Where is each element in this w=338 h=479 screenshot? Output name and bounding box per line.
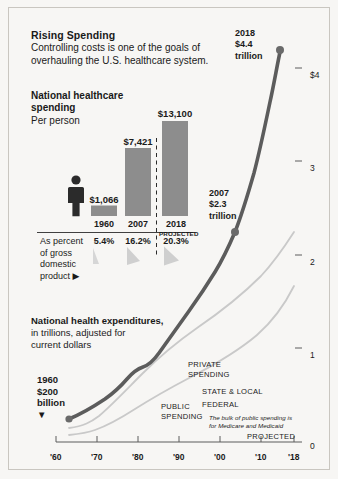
gdp-wedge-2007 xyxy=(127,247,140,265)
bar-2007 xyxy=(125,148,151,216)
bar-year-2007: 2007 xyxy=(119,219,157,230)
x-tick-00: '00 xyxy=(214,452,225,462)
x-tick-10: '10 xyxy=(255,452,266,462)
y-axis-ticks xyxy=(295,68,302,348)
gdp-share-label-line2: of gross xyxy=(40,248,72,258)
callout-1960-year: 1960 xyxy=(37,374,58,385)
gdp-share-label: As percent of gross domestic product ▶ xyxy=(40,236,83,283)
x-tick-18: '18 xyxy=(288,452,299,462)
bar-chart-title-line1: National healthcare xyxy=(31,90,123,101)
callout-2018-year: 2018 xyxy=(235,28,255,38)
person-icon xyxy=(68,175,84,216)
marker-1960 xyxy=(65,415,72,422)
x-tick-90: '90 xyxy=(173,452,184,462)
callout-1960-value: $200 xyxy=(37,386,58,397)
line-chart-title-line2: in trillions, adjusted for xyxy=(31,327,126,338)
line-chart-title-line1: National health expenditures, xyxy=(31,315,164,326)
line-projected-label: PROJECTED xyxy=(247,433,295,442)
series-label-federal: FEDERAL xyxy=(202,400,239,410)
marker-2018 xyxy=(276,46,284,54)
callout-2018: 2018 $4.4 trillion xyxy=(235,28,263,62)
medicare-note: The bulk of public spending is for Medic… xyxy=(209,414,292,430)
infographic-canvas: Rising Spending Controlling costs is one… xyxy=(8,7,330,470)
y-tick-4: $4 xyxy=(310,70,319,80)
x-tick-80: '80 xyxy=(132,452,143,462)
gdp-pct-2018: 20.3% xyxy=(157,236,195,247)
line-chart-title-line3: current dollars xyxy=(31,339,91,350)
callout-2007-year: 2007 xyxy=(209,188,229,198)
bar-value-1960: $1,066 xyxy=(85,194,123,205)
callout-2018-value: $4.4 xyxy=(235,39,253,49)
gdp-share-label-line3: domestic xyxy=(40,259,76,269)
line-chart-title: National health expenditures, in trillio… xyxy=(31,315,164,351)
series-label-public-line2: SPENDING xyxy=(161,412,203,421)
bar-year-1960: 1960 xyxy=(85,219,123,230)
bar-chart-title: National healthcare spending xyxy=(31,90,123,114)
gdp-pct-2007: 16.2% xyxy=(119,236,157,247)
series-label-private: PRIVATE SPENDING xyxy=(188,360,230,381)
y-tick-3: 3 xyxy=(310,163,315,173)
callout-2007-unit: trillion xyxy=(209,211,237,221)
bar-value-2018: $13,100 xyxy=(154,108,196,119)
callout-2007-value: $2.3 xyxy=(209,199,227,209)
infographic-frame: Rising Spending Controlling costs is one… xyxy=(0,0,338,479)
y-tick-0: 0 xyxy=(310,441,315,451)
x-tick-60: '60 xyxy=(50,452,61,462)
series-label-private-line2: SPENDING xyxy=(188,370,230,379)
gdp-share-label-line4: product ▶ xyxy=(40,271,79,281)
bar-value-2007: $7,421 xyxy=(119,136,157,147)
series-label-public: PUBLIC SPENDING xyxy=(161,402,203,423)
callout-1960-marker: ▼ xyxy=(37,409,46,420)
medicare-note-line1: The bulk of public spending is xyxy=(209,414,292,421)
series-label-private-line1: PRIVATE xyxy=(188,360,221,369)
bar-1960 xyxy=(91,206,117,217)
gdp-share-label-line1: As percent xyxy=(40,236,83,246)
medicare-note-line2: for Medicare and Medicaid xyxy=(209,422,283,429)
callout-2007: 2007 $2.3 trillion xyxy=(209,188,237,222)
callout-2018-unit: trillion xyxy=(235,51,263,61)
marker-2007 xyxy=(231,228,239,236)
page-subtitle-line1: Controlling costs is one of the goals of xyxy=(31,42,200,53)
gdp-wedge-1960 xyxy=(93,248,99,264)
gdp-wedge-2018 xyxy=(164,247,179,266)
page-subtitle: Controlling costs is one of the goals of… xyxy=(31,42,208,67)
page-subtitle-line2: overhauling the U.S. healthcare system. xyxy=(31,55,208,66)
callout-1960: 1960 $200 billion ▼ xyxy=(37,374,65,420)
callout-1960-unit: billion xyxy=(37,397,65,408)
bar-chart-subtitle: Per person xyxy=(31,115,80,127)
bar-year-2018: 2018 xyxy=(157,219,195,230)
y-tick-2: 2 xyxy=(310,257,315,267)
page-title: Rising Spending xyxy=(31,29,115,41)
bar-chart-title-line2: spending xyxy=(31,102,75,113)
bar-2018 xyxy=(162,121,188,216)
series-label-state-local: STATE & LOCAL xyxy=(202,387,263,397)
y-tick-1: 1 xyxy=(310,350,315,360)
series-label-public-line1: PUBLIC xyxy=(161,402,190,411)
x-tick-70: '70 xyxy=(91,452,102,462)
gdp-pct-1960: 5.4% xyxy=(85,236,123,247)
